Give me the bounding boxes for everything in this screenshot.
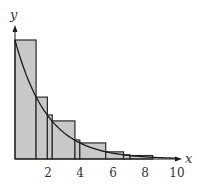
y-axis-label: y xyxy=(9,7,18,22)
rectangles-group xyxy=(15,40,153,159)
y-axis-arrow-icon xyxy=(13,25,18,32)
riemann-rectangle-4 xyxy=(52,121,75,159)
x-axis-label: x xyxy=(185,151,193,166)
x-tick-labels: 2 4 6 8 10 xyxy=(44,166,184,180)
x-tick-10: 10 xyxy=(169,166,184,180)
x-tick-8: 8 xyxy=(141,166,149,180)
riemann-rectangle-3 xyxy=(47,115,52,159)
riemann-sum-chart: x y 2 4 6 8 10 xyxy=(0,0,197,187)
x-axis-arrow-icon xyxy=(175,157,182,162)
riemann-rectangle-1 xyxy=(15,40,36,159)
x-tick-2: 2 xyxy=(44,166,52,180)
x-tick-6: 6 xyxy=(109,166,117,180)
x-tick-4: 4 xyxy=(76,166,84,180)
